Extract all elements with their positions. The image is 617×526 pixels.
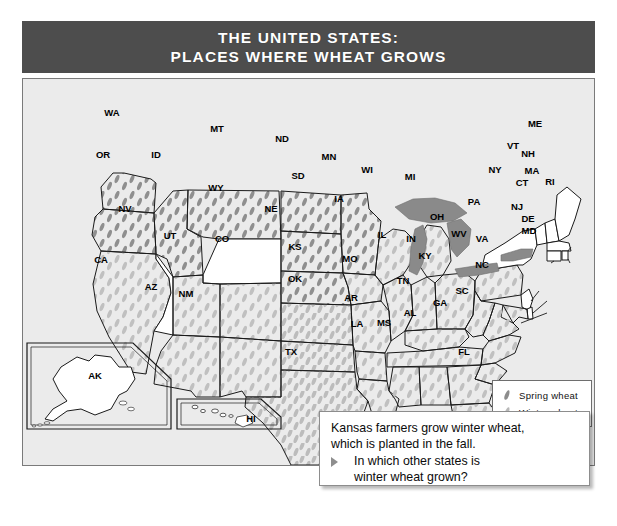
state-label-VA: VA (476, 233, 489, 244)
callout-question-text: In which other states is winter wheat gr… (354, 453, 480, 485)
state-label-GA: GA (433, 297, 447, 308)
state-NM (220, 337, 281, 397)
state-label-SD: SD (291, 170, 304, 181)
state-label-NH: NH (521, 148, 535, 159)
title-line-2: PLACES WHERE WHEAT GROWS (171, 48, 447, 65)
state-label-NY: NY (488, 164, 502, 175)
state-label-OR: OR (96, 149, 110, 160)
state-label-TX: TX (285, 346, 298, 357)
legend-item-spring-wheat: Spring wheat (502, 387, 591, 404)
state-label-CT: CT (516, 177, 529, 188)
state-label-UT: UT (164, 230, 177, 241)
state-RI (562, 251, 568, 260)
state-CT (547, 251, 561, 261)
state-AL (419, 367, 451, 405)
state-label-NC: NC (475, 259, 489, 270)
state-label-MA: MA (525, 165, 540, 176)
state-label-ME: ME (528, 118, 542, 129)
title-line-1: THE UNITED STATES: (218, 29, 399, 46)
state-label-AL: AL (404, 307, 417, 318)
state-OR (92, 209, 156, 254)
state-label-ND: ND (275, 133, 289, 144)
state-WY (203, 239, 281, 284)
state-label-KS: KS (288, 241, 301, 252)
page-title: THE UNITED STATES: PLACES WHERE WHEAT GR… (171, 28, 447, 66)
state-label-NE: NE (264, 203, 277, 214)
callout-question: In which other states is winter wheat gr… (331, 453, 579, 485)
inset-label-HI: HI (246, 413, 256, 424)
state-label-MS: MS (377, 317, 391, 328)
state-CO (220, 283, 281, 341)
state-label-WA: WA (104, 107, 119, 118)
leader-RI (568, 259, 570, 263)
state-AZ (154, 335, 220, 397)
state-MA (547, 241, 571, 251)
state-label-NV: NV (118, 203, 132, 214)
state-label-LA: LA (351, 318, 364, 329)
question-callout: Kansas farmers grow winter wheat, which … (319, 411, 590, 486)
wheat-grain-dark-icon (502, 389, 513, 402)
state-KS (281, 303, 353, 345)
state-ND (281, 191, 341, 234)
state-label-RI: RI (545, 176, 555, 187)
triangle-right-icon (331, 457, 354, 467)
state-label-TN: TN (397, 275, 410, 286)
state-label-DE: DE (521, 213, 534, 224)
state-label-NJ: NJ (511, 201, 523, 212)
leader-DE (533, 301, 547, 313)
state-label-MT: MT (210, 123, 224, 134)
state-label-IL: IL (378, 229, 387, 240)
state-label-WV: WV (451, 228, 467, 239)
state-label-WI: WI (361, 164, 373, 175)
legend-label-spring-wheat: Spring wheat (519, 390, 578, 401)
state-label-ID: ID (151, 149, 161, 160)
callout-statement-line-1: Kansas farmers grow winter wheat, (331, 420, 579, 436)
callout-question-line-1: In which other states is (354, 454, 480, 468)
state-label-MN: MN (322, 151, 337, 162)
state-label-CO: CO (215, 233, 229, 244)
state-label-WY: WY (208, 182, 224, 193)
callout-question-line-2: winter wheat grown? (354, 470, 468, 484)
inset-label-AK: AK (88, 370, 102, 381)
state-label-IN: IN (406, 233, 416, 244)
state-label-OH: OH (430, 211, 444, 222)
map-container: WAORIDMTNDSDMNWIMIWYNEIANVUTCOKSMOILINKY… (22, 78, 595, 466)
callout-statement-line-2: which is planted in the fall. (331, 436, 579, 452)
map-title-bar: THE UNITED STATES: PLACES WHERE WHEAT GR… (22, 21, 595, 73)
hawaiian-islands (192, 405, 253, 427)
state-label-MD: MD (522, 225, 537, 236)
state-label-VT: VT (507, 140, 519, 151)
state-label-KY: KY (418, 250, 432, 261)
state-label-CA: CA (94, 254, 108, 265)
state-label-PA: PA (468, 196, 481, 207)
state-label-MI: MI (405, 171, 416, 182)
state-ME (555, 187, 581, 241)
state-AR (355, 351, 387, 381)
state-label-MO: MO (342, 253, 357, 264)
state-label-AZ: AZ (145, 281, 158, 292)
state-SD (281, 231, 343, 273)
state-label-OK: OK (288, 273, 302, 284)
state-label-FL: FL (458, 346, 470, 357)
state-label-IA: IA (334, 193, 344, 204)
state-label-AR: AR (344, 292, 358, 303)
state-MT (187, 190, 281, 239)
state-label-NM: NM (179, 288, 194, 299)
state-AK (45, 355, 135, 421)
state-label-SC: SC (455, 285, 468, 296)
worksheet-page: THE UNITED STATES: PLACES WHERE WHEAT GR… (0, 0, 617, 526)
state-UT (173, 275, 220, 337)
